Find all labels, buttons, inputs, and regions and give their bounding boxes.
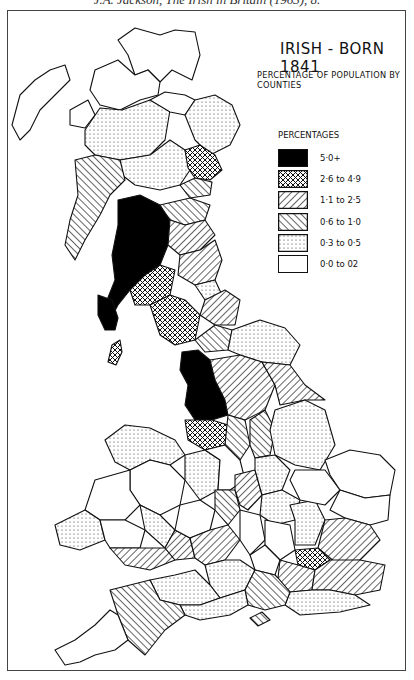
legend-item-0-6-to-1-0: 0·6 to 1·0 — [272, 212, 402, 232]
region-leicester — [255, 455, 290, 495]
legend-label: 2·6 to 4·9 — [320, 174, 361, 184]
legend-item-5plus: 5·0+ — [272, 148, 402, 168]
swatch-diagonal-back — [278, 213, 308, 231]
region-carmarthen — [100, 520, 145, 548]
legend: PERCENTAGES 5·0+ 2·6 to 4·9 1·1 to 2·5 0… — [272, 130, 402, 275]
region-isle-of-wight — [250, 612, 270, 626]
map-subtitle: PERCENTAGE OF POPULATION BY COUNTIES — [257, 70, 414, 90]
region-cumberland — [150, 295, 200, 345]
legend-item-1-1-to-2-5: 1·1 to 2·5 — [272, 190, 402, 210]
region-westmorland — [195, 325, 232, 352]
swatch-crosshatch — [278, 170, 308, 188]
region-fife — [180, 178, 212, 198]
region-glamorgan — [110, 548, 175, 570]
legend-label: 0·3 to 0·5 — [320, 238, 361, 248]
region-aberdeen — [185, 95, 240, 155]
legend-label: 0·0 to 02 — [320, 259, 358, 269]
swatch-solid-black — [278, 149, 308, 167]
legend-title: PERCENTAGES — [278, 130, 402, 140]
swatch-diagonal-forward — [278, 191, 308, 209]
region-cornwall — [55, 610, 128, 665]
legend-item-0-3-to-0-5: 0·3 to 0·5 — [272, 233, 402, 253]
swatch-blank — [278, 255, 308, 273]
legend-label: 0·6 to 1·0 — [320, 217, 361, 227]
legend-label: 5·0+ — [320, 153, 341, 163]
swatch-dots — [278, 234, 308, 252]
legend-label: 1·1 to 2·5 — [320, 195, 361, 205]
region-hebrides — [12, 65, 70, 140]
choropleth-map — [0, 0, 414, 680]
region-beds-herts — [290, 500, 325, 545]
legend-item-2-6-to-4-9: 2·6 to 4·9 — [272, 169, 402, 189]
legend-item-0-0-to-0-2: 0·0 to 02 — [272, 254, 402, 274]
region-isle-of-man — [108, 340, 122, 365]
